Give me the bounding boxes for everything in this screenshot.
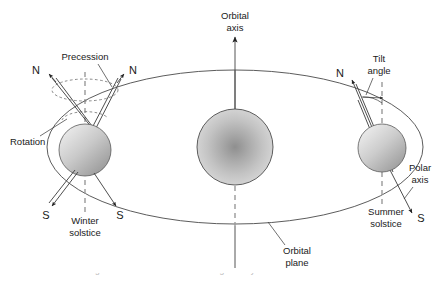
label-orbital-axis-line1: Orbital — [221, 10, 249, 21]
label-summer-solstice-line2: solstice — [370, 218, 402, 229]
winter-north-arrow-a — [49, 74, 56, 82]
label-winter-solstice-line2: solstice — [69, 227, 101, 238]
label-tilt-angle-line1: Tilt — [373, 53, 386, 64]
winter-polar-axis-b2 — [95, 79, 121, 130]
label-orbital-plane-line2: plane — [285, 257, 308, 268]
label-tilt-angle-line2: angle — [367, 65, 390, 76]
tilt-angle-indicator — [362, 97, 383, 98]
label-orbital-axis-line2: axis — [227, 22, 244, 33]
label-polar-axis-line2: axis — [412, 174, 429, 185]
label-rotation: Rotation — [10, 136, 45, 147]
orbital-diagram: N N S S Precession Rotation Winter solst… — [0, 0, 440, 282]
rotation-leader — [40, 119, 67, 136]
label-summer-solstice-line1: Summer — [368, 206, 404, 217]
label-south-right: S — [417, 212, 424, 224]
cropped-caption-strip: Fig. 1 Earth's orbital and rotational ge… — [0, 273, 440, 282]
cropped-caption-text: Fig. 1 Earth's orbital and rotational ge… — [88, 273, 255, 275]
diagram-canvas: N N S S Precession Rotation Winter solst… — [0, 0, 440, 282]
winter-south-axis-a — [52, 172, 78, 206]
earth-summer-body — [358, 124, 406, 172]
label-south-left-a: S — [42, 209, 49, 221]
label-orbital-plane-line1: Orbital — [283, 245, 311, 256]
label-winter-solstice-line1: Winter — [71, 215, 98, 226]
sun-body — [197, 109, 273, 185]
winter-polar-axis-b — [92, 78, 118, 128]
label-north-left-b: N — [129, 64, 137, 76]
label-north-right: N — [336, 67, 344, 79]
label-precession: Precession — [62, 51, 109, 62]
label-polar-axis-line1: Polar — [409, 162, 431, 173]
polar-axis-leader — [404, 187, 413, 199]
orbital-plane-leader — [268, 222, 285, 245]
precession-leader — [98, 64, 112, 87]
earth-winter-body — [59, 124, 111, 176]
tilt-angle-leader — [366, 78, 373, 95]
winter-south-axis-b — [94, 173, 116, 206]
winter-south-axis-a2 — [49, 170, 75, 203]
label-south-left-b: S — [116, 209, 123, 221]
label-north-left-a: N — [32, 64, 40, 76]
